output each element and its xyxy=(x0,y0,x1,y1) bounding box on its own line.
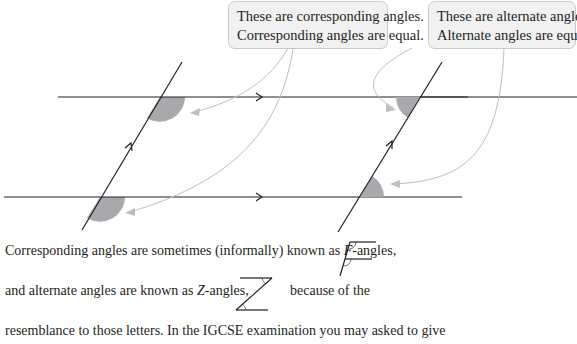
paragraph-line-3: resemblance to those letters. In the IGC… xyxy=(5,323,446,339)
paragraph-line-2: and alternate angles are known as Z-angl… xyxy=(5,283,249,299)
angle-shade-bottom xyxy=(360,176,384,197)
z-shape-icon xyxy=(232,274,274,314)
parallel-lines-diagram xyxy=(0,0,577,240)
angle-shade-bottom xyxy=(87,197,125,222)
paragraph-line-2-end: because of the xyxy=(290,283,370,299)
angle-shade-top xyxy=(396,97,420,118)
parallel-arrow-icon xyxy=(125,143,132,151)
callout-arrows xyxy=(130,48,504,212)
angle-shade-top xyxy=(147,97,185,122)
f-shape-icon xyxy=(336,238,376,278)
